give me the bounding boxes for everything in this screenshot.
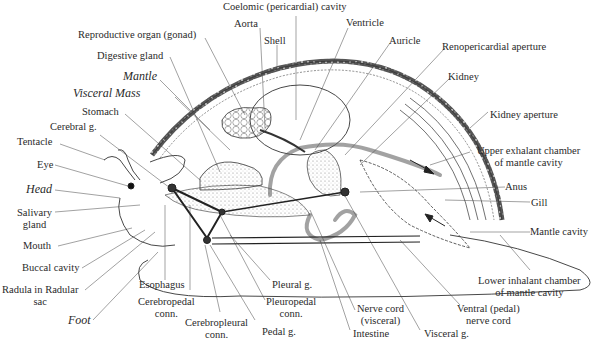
label-anus: Anus	[505, 181, 527, 193]
label-intestine: Intestine	[353, 328, 389, 340]
label-cerebropedal-line2: conn.	[155, 308, 178, 319]
label-visceral-g: Visceral g.	[424, 328, 469, 340]
label-eye: Eye	[37, 159, 53, 171]
label-nerve-cord-visceral: Nerve cord (visceral)	[357, 303, 404, 327]
label-cerebropleural-conn: Cerebropleural conn.	[185, 317, 248, 341]
label-mantle-cavity: Mantle cavity	[530, 226, 588, 238]
label-pedal-g: Pedal g.	[262, 326, 296, 338]
kidney	[307, 150, 341, 196]
label-cerebropleural-line1: Cerebropleural	[185, 317, 248, 328]
label-upper-exhalant-chamber: Upper exhalant chamber of mantle cavity	[477, 145, 580, 169]
label-kidney: Kidney	[448, 71, 479, 83]
label-mantle: Mantle	[123, 70, 157, 82]
label-salivary-line1: Salivary	[17, 207, 52, 218]
label-salivary-gland: Salivary gland	[17, 207, 52, 231]
label-ventral-nerve-cord: Ventral (pedal) nerve cord	[457, 303, 520, 327]
label-pleuropedal-line2: conn.	[280, 308, 303, 319]
label-radula: Radula in Radular sac	[2, 284, 78, 308]
label-ventral-cord-line2: nerve cord	[466, 315, 511, 326]
label-buccal-cavity: Buccal cavity	[22, 262, 79, 274]
label-visceral-mass: Visceral Mass	[73, 87, 140, 99]
label-mouth: Mouth	[23, 240, 51, 252]
label-digestive-gland: Digestive gland	[97, 50, 163, 62]
intestine	[270, 144, 440, 240]
heart	[260, 130, 305, 152]
label-lower-inhalant-line2: of mantle cavity	[495, 287, 563, 298]
label-coelomic-cavity: Coelomic (pericardial) cavity	[223, 1, 347, 13]
label-shell: Shell	[264, 35, 286, 47]
label-upper-exhalant-line2: of mantle cavity	[494, 157, 562, 168]
label-kidney-aperture: Kidney aperture	[490, 109, 558, 121]
label-foot: Foot	[68, 314, 91, 326]
mollusc-anatomy-diagram: Coelomic (pericardial) cavity Aorta Shel…	[0, 0, 600, 347]
label-stomach: Stomach	[82, 106, 119, 118]
mantle	[400, 98, 486, 220]
label-cerebral-g: Cerebral g.	[50, 121, 97, 133]
label-ventral-cord-line1: Ventral (pedal)	[457, 303, 520, 314]
label-radula-line2: sac	[33, 296, 46, 307]
label-lower-inhalant-chamber: Lower inhalant chamber of mantle cavity	[478, 275, 581, 299]
label-radula-line1: Radula in Radular	[2, 284, 78, 295]
label-gill: Gill	[531, 197, 547, 209]
label-pleuropedal-line1: Pleuropedal	[266, 296, 316, 307]
water-flow-arrows	[410, 160, 445, 226]
label-renopericardial-aperture: Renopericardial aperture	[442, 41, 546, 53]
label-cerebropleural-line2: conn.	[205, 329, 228, 340]
label-reproductive-organ: Reproductive organ (gonad)	[78, 29, 196, 41]
label-upper-exhalant-line1: Upper exhalant chamber	[477, 145, 580, 156]
label-esophagus: Esophagus	[139, 279, 185, 291]
label-lower-inhalant-line1: Lower inhalant chamber	[478, 275, 581, 286]
label-auricle: Auricle	[389, 35, 421, 47]
label-pleuropedal-conn: Pleuropedal conn.	[266, 296, 316, 320]
label-nerve-cord-line1: Nerve cord	[357, 303, 404, 314]
label-nerve-cord-line2: (visceral)	[361, 315, 401, 326]
label-cerebropedal-line1: Cerebropedal	[138, 296, 195, 307]
label-pleural-g: Pleural g.	[272, 279, 312, 291]
label-salivary-line2: gland	[23, 219, 46, 230]
label-ventricle: Ventricle	[346, 17, 384, 29]
label-aorta: Aorta	[234, 18, 258, 30]
gonad	[222, 108, 271, 139]
label-tentacle: Tentacle	[17, 136, 52, 148]
label-head: Head	[26, 183, 52, 195]
